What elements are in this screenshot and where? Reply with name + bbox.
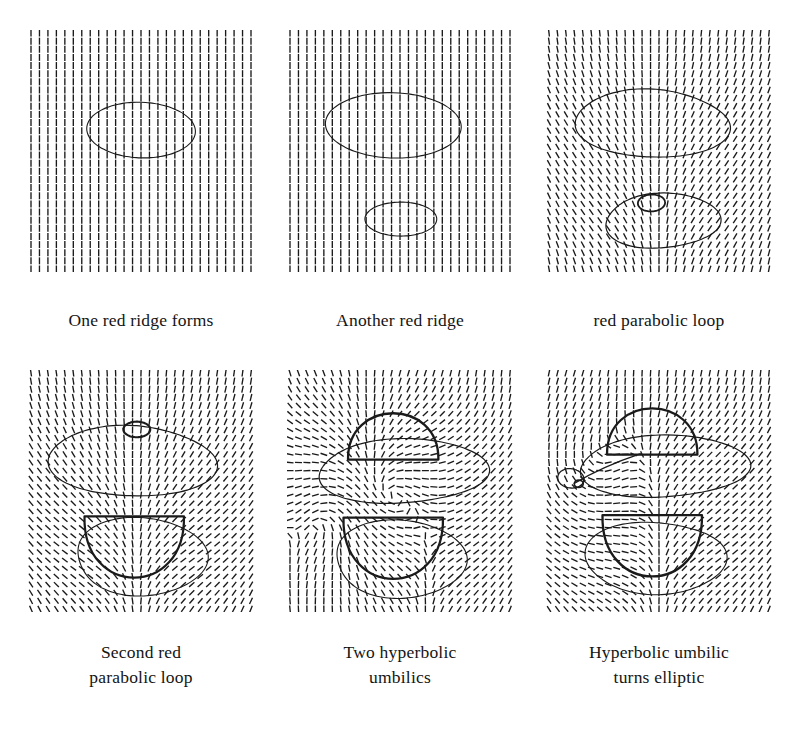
field-tick [224,460,228,466]
field-tick [106,443,108,450]
field-tick [760,386,761,393]
field-tick [321,453,328,455]
field-tick [96,509,100,514]
field-tick [173,451,176,457]
field-tick [482,582,487,587]
field-tick [113,566,117,571]
field-tick [115,459,117,466]
field-tick [347,468,352,472]
field-tick [631,598,636,603]
field-tick [548,475,550,482]
field-tick [700,394,703,400]
field-tick [250,394,252,401]
field-tick [509,402,511,409]
field-tick [642,103,643,110]
field-tick [741,566,746,571]
field-tick [197,558,203,562]
field-tick [148,541,151,547]
field-tick [599,386,601,393]
field-tick [571,534,577,537]
field-tick [640,460,645,465]
field-tick [605,599,611,603]
field-tick [675,201,677,208]
field-tick [674,419,677,425]
field-tick [141,451,142,458]
field-tick [573,427,575,434]
field-tick [398,419,402,424]
field-tick [157,435,159,442]
field-tick [742,606,745,612]
field-tick [305,541,308,547]
field-tick [667,78,668,85]
field-tick [508,509,513,514]
field-tick [726,266,728,272]
field-tick [71,590,76,595]
field-tick [191,378,192,385]
field-tick [590,419,592,426]
field-tick [622,583,628,586]
field-tick [466,403,469,409]
field-tick [768,87,770,94]
field-tick [734,250,737,256]
field-tick [588,478,595,480]
field-tick [716,419,720,425]
field-tick [557,378,559,385]
field-tick [295,478,302,479]
field-tick [642,135,643,142]
field-tick [767,590,770,596]
field-tick [54,566,59,571]
field-tick [759,582,763,588]
field-tick [659,370,660,376]
field-tick [573,95,576,101]
field-tick [406,558,412,562]
field-tick [591,30,592,36]
field-tick [666,443,669,449]
field-tick [388,526,394,529]
field-tick [223,509,228,514]
field-tick [465,461,471,465]
field-tick [449,590,453,595]
field-tick [106,435,108,442]
field-tick [304,445,311,447]
field-tick [500,427,503,433]
field-tick [174,427,176,434]
field-tick [482,534,487,538]
field-tick [440,590,444,596]
field-tick [391,378,393,385]
field-tick [608,30,609,36]
field-tick [312,454,319,456]
field-tick [149,418,150,425]
field-tick [29,558,34,563]
field-tick [474,582,479,587]
field-tick [323,532,324,539]
field-tick [64,419,67,425]
field-tick [725,411,729,417]
field-tick [298,532,299,539]
field-tick [106,467,109,474]
field-tick [768,111,771,117]
field-tick [759,128,762,134]
field-tick [71,517,76,522]
field-tick [683,136,686,142]
field-tick [724,509,729,514]
field-tick [598,217,602,223]
field-tick [675,127,677,134]
field-tick [499,566,503,571]
field-tick [717,258,720,264]
caption-line: Two hyperbolic [287,640,513,665]
field-tick [149,443,150,450]
field-tick [675,386,677,393]
field-tick [450,370,452,376]
field-tick [123,598,125,605]
field-tick [45,525,50,530]
field-tick [500,410,503,417]
field-tick [166,386,167,393]
field-tick [249,509,253,515]
field-tick [649,525,653,531]
field-tick [615,225,619,231]
field-tick [165,435,167,442]
field-tick [557,257,559,264]
field-tick [658,475,659,482]
field-tick [683,87,685,94]
field-tick [416,370,418,376]
